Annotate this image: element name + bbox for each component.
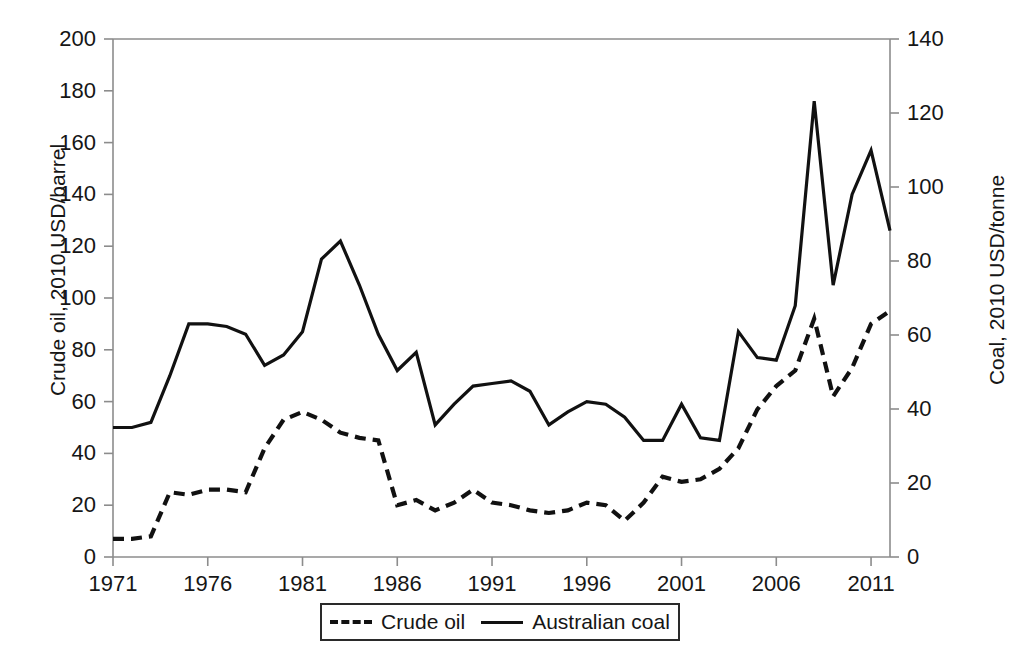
y-tick-label-left: 40 [33,442,96,464]
series-line-crude-oil [113,311,890,539]
y-tick-label-left: 120 [33,235,96,257]
y-tick-label-right: 100 [907,176,944,198]
series-line-australian-coal [113,101,890,440]
y-tick-label-left: 60 [33,391,96,413]
legend-item-australian-coal: Australian coal [481,610,670,634]
y-tick-label-right: 140 [907,28,944,50]
x-tick-label: 1976 [163,573,253,595]
x-tick-label: 1991 [447,573,537,595]
y-tick-label-right: 0 [907,546,919,568]
y-tick-label-left: 0 [33,546,96,568]
y-tick-label-left: 100 [33,287,96,309]
chart-legend: Crude oil Australian coal [320,603,680,641]
y-tick-label-left: 180 [33,80,96,102]
x-tick-label: 1981 [258,573,348,595]
y-tick-label-left: 160 [33,132,96,154]
y-tick-label-left: 20 [33,494,96,516]
y-tick-label-left: 200 [33,28,96,50]
dashed-line-icon [330,620,372,624]
legend-label-australian-coal: Australian coal [532,610,670,634]
y-tick-label-right: 20 [907,472,931,494]
legend-item-crude-oil: Crude oil [330,610,465,634]
y-tick-label-right: 40 [907,398,931,420]
x-tick-label: 1986 [352,573,442,595]
x-tick-label: 2006 [731,573,821,595]
legend-label-crude-oil: Crude oil [381,610,465,634]
y-tick-label-left: 80 [33,339,96,361]
x-tick-label: 2011 [826,573,916,595]
y-tick-label-left: 140 [33,183,96,205]
y-tick-label-right: 80 [907,250,931,272]
y-tick-label-right: 60 [907,324,931,346]
x-tick-label: 1996 [542,573,632,595]
solid-line-icon [481,621,523,624]
x-tick-label: 2001 [637,573,727,595]
x-tick-label: 1971 [68,573,158,595]
y-tick-label-right: 120 [907,102,944,124]
